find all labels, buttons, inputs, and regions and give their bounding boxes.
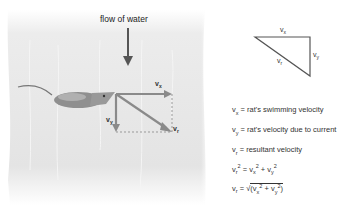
equation-pythagoras: vr2 = vx2 + vy2 [232,163,277,175]
legend-vx: vx = rat's swimming velocity [232,105,324,116]
triangle-vr-label: vr [277,57,282,66]
vy-vector-label: vy [106,116,113,125]
vr-vector-label: vr [173,125,179,134]
equation-resultant: vr = √(vx2 + vy2) [232,182,283,194]
vector-triangle [255,37,310,76]
flow-of-water-label: flow of water [100,14,148,24]
triangle-vy-label: vy [313,51,319,60]
vx-vector-label: vx [155,80,162,89]
legend-vy: vy = rat's velocity due to current [232,125,336,136]
legend-vr: vr = resultant velocity [232,145,302,156]
triangle-vx-label: vx [280,26,286,35]
